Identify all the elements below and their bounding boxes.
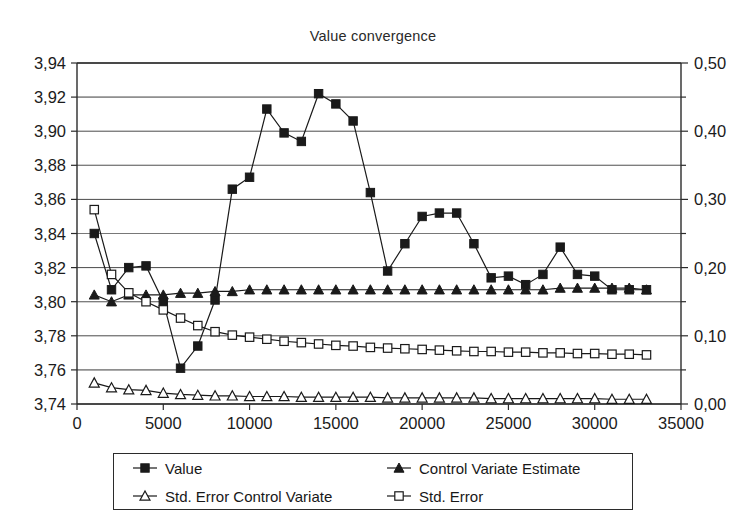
data-point-filled-square	[539, 270, 547, 278]
data-point-filled-square	[349, 117, 357, 125]
filled-triangle-icon	[386, 461, 412, 475]
legend-item-label: Value	[165, 461, 202, 476]
y-axis-left-tick-label: 3,94	[34, 54, 66, 72]
data-point-filled-square	[228, 185, 236, 193]
tick-labels-layer: 3,743,763,783,803,823,843,863,883,903,92…	[34, 54, 726, 432]
data-point-filled-square	[573, 270, 581, 278]
data-point-open-square	[314, 340, 322, 348]
data-point-open-square	[435, 346, 443, 354]
legend-item[interactable]: Value	[114, 454, 376, 482]
data-point-open-square	[245, 333, 253, 341]
y-axis-left-tick-label: 3,78	[34, 327, 66, 345]
data-point-open-square	[487, 347, 495, 355]
data-point-open-square	[142, 298, 150, 306]
x-axis-tick-label: 10000	[227, 414, 273, 432]
data-point-filled-square	[107, 286, 115, 294]
data-point-filled-square	[452, 209, 460, 217]
x-axis-tick-label: 0	[72, 414, 81, 432]
data-point-open-square	[349, 342, 357, 350]
data-point-filled-square	[263, 105, 271, 113]
data-point-filled-square	[487, 274, 495, 282]
y-axis-left-tick-label: 3,74	[34, 395, 66, 413]
data-point-filled-square	[418, 212, 426, 220]
open-triangle-icon	[132, 489, 158, 503]
y-axis-left-tick-label: 3,92	[34, 88, 66, 106]
data-point-open-square	[470, 347, 478, 355]
data-point-filled-square	[297, 137, 305, 145]
data-point-open-square	[573, 349, 581, 357]
legend-item[interactable]: Std. Error	[376, 482, 634, 510]
data-point-filled-square	[314, 89, 322, 97]
legend-item[interactable]: Control Variate Estimate	[376, 454, 634, 482]
data-point-open-square	[608, 350, 616, 358]
y-axis-right-tick-label: 0,10	[694, 327, 726, 345]
chart-legend: ValueControl Variate EstimateStd. Error …	[113, 453, 633, 510]
legend-item-label: Std. Error	[419, 489, 483, 504]
series-value	[90, 89, 651, 372]
data-point-filled-square	[211, 296, 219, 304]
data-point-open-square	[194, 321, 202, 329]
series-control-variate-estimate	[89, 283, 651, 306]
data-point-open-square	[401, 345, 409, 353]
data-point-filled-square	[383, 267, 391, 275]
data-point-open-square	[395, 492, 403, 500]
data-point-filled-square	[332, 100, 340, 108]
x-axis-tick-label: 30000	[572, 414, 618, 432]
y-axis-left-tick-label: 3,76	[34, 361, 66, 379]
data-point-open-square	[418, 345, 426, 353]
y-axis-left-tick-label: 3,84	[34, 225, 66, 243]
data-point-filled-square	[366, 188, 374, 196]
series-std-error-control-variate	[89, 378, 651, 404]
data-point-open-square	[125, 289, 133, 297]
data-point-open-square	[642, 351, 650, 359]
filled-square-icon	[132, 461, 158, 475]
data-point-filled-square	[556, 243, 564, 251]
data-point-filled-square	[245, 173, 253, 181]
data-point-open-square	[625, 350, 633, 358]
y-axis-right-tick-label: 0,00	[694, 395, 726, 413]
legend-item[interactable]: Std. Error Control Variate	[114, 482, 376, 510]
data-point-open-triangle	[89, 378, 99, 387]
data-point-open-square	[90, 205, 98, 213]
series-layer	[89, 89, 651, 403]
y-axis-left-tick-label: 3,82	[34, 259, 66, 277]
legend-item-label: Control Variate Estimate	[419, 461, 580, 476]
y-axis-left-tick-label: 3,90	[34, 122, 66, 140]
x-axis-tick-label: 5000	[145, 414, 182, 432]
y-axis-right-tick-label: 0,50	[694, 54, 726, 72]
x-axis-tick-label: 20000	[399, 414, 445, 432]
data-point-open-square	[521, 348, 529, 356]
y-axis-right-tick-label: 0,30	[694, 190, 726, 208]
data-point-open-square	[452, 347, 460, 355]
legend-item-label: Std. Error Control Variate	[165, 489, 332, 504]
y-axis-left-tick-label: 3,86	[34, 190, 66, 208]
y-axis-left-tick-label: 3,80	[34, 293, 66, 311]
data-point-filled-square	[90, 229, 98, 237]
data-point-open-square	[263, 335, 271, 343]
data-point-open-square	[159, 306, 167, 314]
data-point-filled-square	[401, 240, 409, 248]
data-point-open-square	[297, 338, 305, 346]
chart-plot-area: 3,743,763,783,803,823,843,863,883,903,92…	[0, 0, 746, 525]
data-point-filled-square	[176, 364, 184, 372]
y-axis-right-tick-label: 0,40	[694, 122, 726, 140]
data-point-open-square	[591, 349, 599, 357]
data-point-open-square	[107, 270, 115, 278]
data-point-open-square	[539, 349, 547, 357]
x-axis-tick-label: 25000	[485, 414, 531, 432]
data-point-filled-square	[280, 129, 288, 137]
data-point-open-square	[556, 349, 564, 357]
data-point-filled-triangle	[89, 290, 99, 299]
data-point-open-square	[504, 348, 512, 356]
data-point-filled-square	[470, 240, 478, 248]
data-point-filled-square	[194, 342, 202, 350]
y-axis-left-tick-label: 3,88	[34, 156, 66, 174]
data-point-open-square	[228, 331, 236, 339]
data-point-open-square	[176, 314, 184, 322]
data-point-open-square	[383, 344, 391, 352]
data-point-filled-square	[142, 262, 150, 270]
data-point-filled-square	[504, 272, 512, 280]
data-point-open-square	[211, 328, 219, 336]
data-point-open-square	[280, 337, 288, 345]
x-axis-tick-label: 15000	[313, 414, 359, 432]
